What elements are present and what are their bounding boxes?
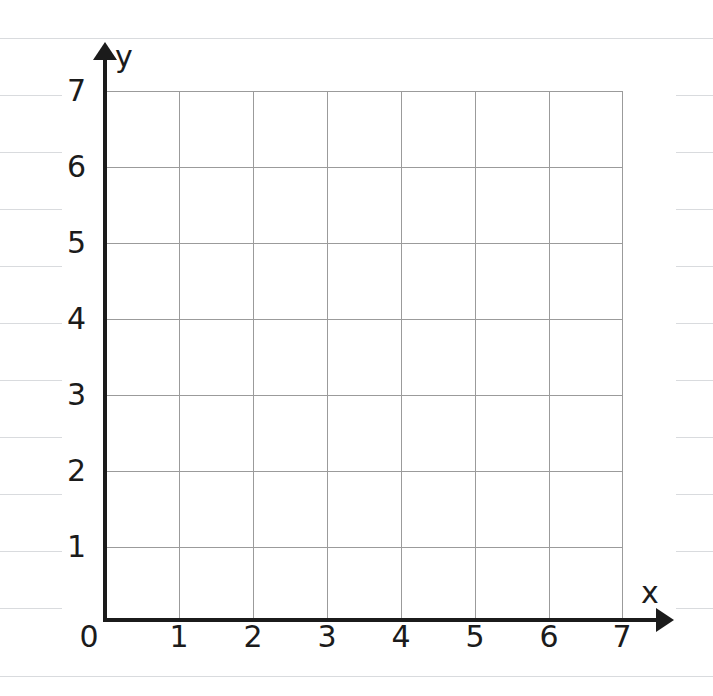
x-tick-label-7: 7 [602, 622, 642, 652]
y-tick-label-4: 4 [52, 304, 86, 334]
y-axis-label: y [115, 42, 133, 72]
y-tick-label-3: 3 [52, 380, 86, 410]
x-tick-label-2: 2 [233, 622, 273, 652]
axes [103, 50, 662, 622]
y-tick-label-1: 1 [52, 532, 86, 562]
y-tick-label-6: 6 [52, 152, 86, 182]
x-axis-label: x [641, 578, 659, 608]
plot-area [0, 0, 713, 696]
x-tick-label-6: 6 [529, 622, 569, 652]
y-axis-arrowhead [93, 42, 117, 60]
coordinate-grid-figure: 7 6 5 4 3 2 1 0 1 2 3 4 5 6 7 x y [0, 0, 713, 696]
x-tick-label-1: 1 [159, 622, 199, 652]
y-tick-label-5: 5 [52, 228, 86, 258]
y-tick-label-7: 7 [52, 76, 86, 106]
x-tick-label-4: 4 [381, 622, 421, 652]
grid-lines-horizontal [105, 91, 622, 547]
x-tick-label-3: 3 [307, 622, 347, 652]
grid-lines-vertical [179, 91, 622, 620]
x-tick-label-0: 0 [69, 622, 109, 652]
x-axis-arrowhead [656, 608, 674, 632]
y-tick-label-2: 2 [52, 456, 86, 486]
x-tick-label-5: 5 [455, 622, 495, 652]
